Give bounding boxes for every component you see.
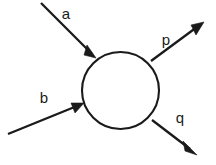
particle-q-label: q [176, 109, 184, 126]
particle-b-label: b [40, 89, 48, 106]
particle-b-arrowhead [71, 103, 84, 113]
scattering-diagram-svg: Particle scattering diagram Two incoming… [0, 0, 216, 165]
scattering-diagram-canvas: Particle scattering diagram Two incoming… [0, 0, 216, 165]
particle-a-label: a [62, 5, 71, 22]
particle-b-group: b [8, 89, 84, 134]
particle-p-label: p [162, 31, 170, 48]
particle-p-group: p [151, 22, 204, 61]
particle-a-group: a [41, 3, 96, 58]
particle-p-line [151, 27, 197, 61]
interaction-blob [82, 52, 159, 129]
particle-b-line [8, 106, 77, 134]
particle-p-arrowhead [191, 22, 204, 35]
particle-q-group: q [152, 109, 197, 155]
particle-q-arrowhead [183, 141, 197, 155]
